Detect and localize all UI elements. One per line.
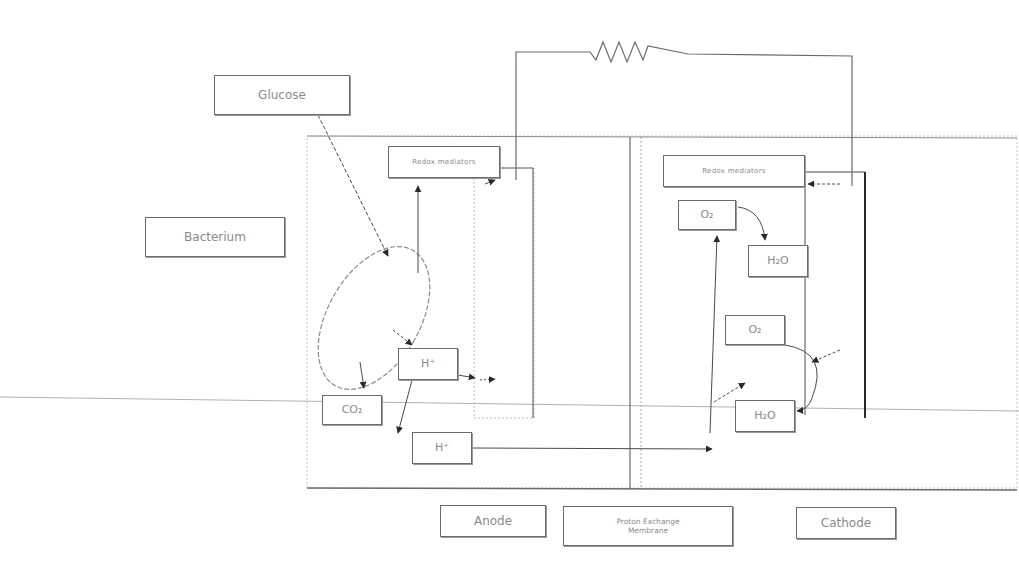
bacterium-cell (295, 227, 453, 408)
proton-exchange-membrane (630, 137, 641, 489)
h2o-bottom-label: H₂O (735, 400, 795, 432)
cathode-electrode (805, 172, 865, 418)
h-plus-mid-label: H⁺ (398, 348, 458, 380)
o2-bottom-label: O₂ (725, 315, 785, 345)
cathode-label: Cathode (796, 507, 896, 539)
redox-mediators-cathode-label: Redox mediators (663, 155, 805, 187)
fuel-cell-diagram: Glucose Bacterium Redox mediators Redox … (0, 0, 1019, 569)
bacterium-label: Bacterium (145, 217, 285, 257)
h-plus-low-label: H⁺ (412, 432, 472, 464)
co2-label: CO₂ (322, 395, 382, 425)
divider-line (0, 397, 1019, 411)
glucose-label: Glucose (214, 75, 350, 115)
redox-mediators-anode-label: Redox mediators (388, 146, 500, 178)
anode-electrode (474, 168, 534, 418)
o2-top-label: O₂ (678, 200, 736, 230)
proton-exchange-membrane-label: Proton Exchange Membrane (563, 506, 733, 546)
h2o-top-label: H₂O (748, 245, 808, 277)
anode-label: Anode (440, 505, 546, 537)
